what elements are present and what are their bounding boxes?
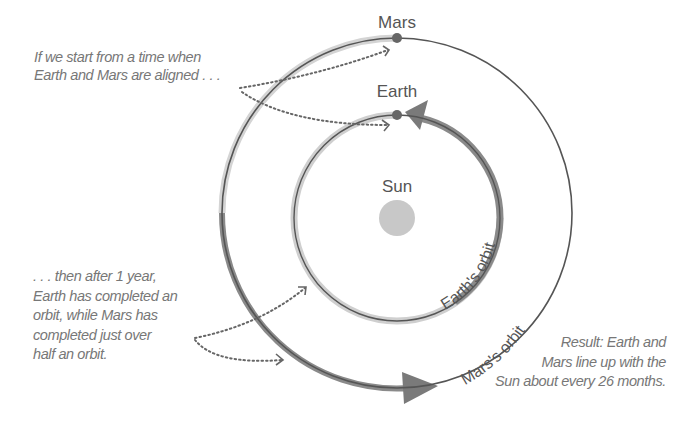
caption-start: If we start from a time when Earth and M… [34,48,220,84]
mars-label: Mars [378,13,416,32]
caption-line: Sun about every 26 months. [495,372,666,392]
caption-line: . . . then after 1 year, [33,267,177,287]
caption-line: orbit, while Mars has [33,306,177,326]
caption-line: Result: Earth and [495,333,666,353]
caption-line: Earth has completed an [33,287,177,307]
sun-label: Sun [382,177,412,196]
sun [379,200,415,236]
earth-label: Earth [377,82,418,101]
earth-planet [392,110,402,120]
pointer-to-mars-after [195,340,282,361]
caption-result: Result: Earth and Mars line up with the … [495,333,666,392]
earth-orbit-label: Earth's orbit [438,240,499,313]
caption-line: Earth and Mars are aligned . . . [34,66,220,84]
caption-line: half an orbit. [33,345,177,365]
caption-line: If we start from a time when [34,48,220,66]
caption-line: completed just over [33,326,177,346]
caption-after-year: . . . then after 1 year, Earth has compl… [33,267,177,365]
earth-progress-arc-top [420,118,500,218]
mars-planet [392,33,402,43]
caption-line: Mars line up with the [495,353,666,373]
mars-progress-arc [222,213,410,388]
